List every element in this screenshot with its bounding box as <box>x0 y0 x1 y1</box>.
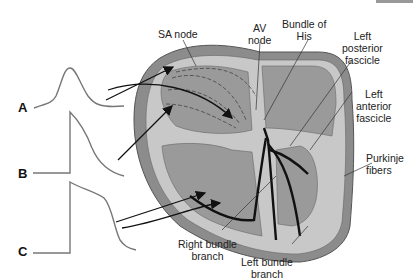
waveform-label-a: A <box>18 100 27 115</box>
label-bundle-of-his: Bundle ofHis <box>282 18 326 42</box>
label-left-anterior-fascicle: Leftanteriorfascicle <box>356 88 392 124</box>
label-purkinje-fibers: Purkinjefibers <box>366 152 404 176</box>
waveform-c <box>33 182 136 253</box>
waveform-a <box>34 68 124 108</box>
waveform-label-c: C <box>18 244 27 259</box>
waveform-b <box>33 112 124 176</box>
label-sa-node: SA node <box>158 28 198 40</box>
label-left-bundle-branch: Left bundlebranch <box>241 256 293 280</box>
label-av-node: AVnode <box>248 22 271 46</box>
label-left-posterior-fascicle: Leftposteriorfascicle <box>342 30 383 66</box>
waveform-label-b: B <box>18 166 27 181</box>
label-right-bundle-branch: Right bundlebranch <box>178 238 237 262</box>
